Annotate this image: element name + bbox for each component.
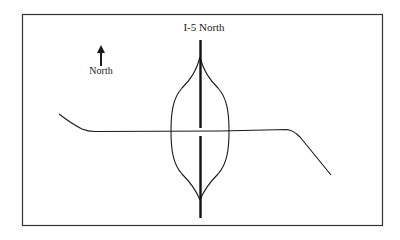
crossroad xyxy=(59,114,331,175)
north-arrow-icon xyxy=(97,45,105,66)
interchange-diagram xyxy=(0,0,400,240)
interchange-loop-east xyxy=(200,57,229,200)
diagram-title: I-5 North xyxy=(183,21,224,33)
north-label: North xyxy=(89,65,112,76)
interchange-loop-west xyxy=(171,57,200,200)
